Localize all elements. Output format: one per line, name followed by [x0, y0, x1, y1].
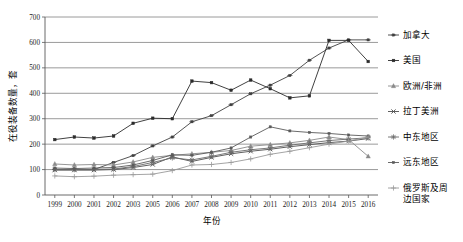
legend-item-4[interactable]: 中东地区 — [388, 131, 439, 142]
legend-item-2[interactable]: 欧洲/非洲 — [388, 80, 442, 91]
y-tick-label: 600 — [29, 39, 40, 47]
data-point — [151, 117, 154, 120]
data-point — [132, 164, 134, 166]
x-tick-label: 2006 — [165, 201, 180, 209]
y-tick-label: 300 — [29, 115, 40, 123]
x-tick-label: 2013 — [302, 201, 317, 209]
y-tick-label: 0 — [36, 192, 40, 200]
data-point — [230, 147, 232, 149]
data-point — [328, 132, 330, 134]
legend-label: 拉丁美洲 — [403, 105, 439, 116]
x-tick-label: 2011 — [263, 201, 278, 209]
data-point — [347, 39, 350, 42]
data-point — [367, 60, 370, 63]
data-point — [112, 135, 115, 138]
data-point — [210, 81, 213, 84]
legend-label: 俄罗斯及周 — [403, 182, 448, 193]
legend-item-5[interactable]: 远东地区 — [388, 156, 439, 167]
data-point — [171, 117, 174, 120]
x-tick-label: 2016 — [361, 201, 376, 209]
x-tick-label: 2014 — [322, 201, 337, 209]
x-tick-label: 2005 — [146, 201, 161, 209]
y-tick-label: 700 — [29, 14, 40, 22]
x-tick-label: 2012 — [283, 201, 298, 209]
data-point — [328, 39, 331, 42]
x-tick-label: 1999 — [48, 201, 63, 209]
data-point — [392, 59, 395, 62]
data-point — [53, 138, 56, 141]
y-tick-label: 200 — [29, 141, 40, 149]
data-point — [93, 167, 95, 169]
data-point — [73, 167, 75, 169]
legend-label: 欧洲/非洲 — [403, 80, 442, 91]
legend-item-0[interactable]: 加拿大 — [388, 29, 430, 40]
data-point — [132, 122, 135, 125]
x-tick-label: 2008 — [204, 201, 219, 209]
x-tick-label: 2015 — [341, 201, 356, 209]
y-tick-label: 100 — [29, 166, 40, 174]
legend-label: 中东地区 — [403, 131, 439, 142]
series-2 — [53, 135, 371, 167]
data-point — [112, 166, 114, 168]
chart-container: 0100200300400500600700199920002001200220… — [0, 0, 463, 242]
y-axis-title: 在役装备数量，套 — [7, 70, 18, 142]
legend-label: 远东地区 — [403, 156, 439, 167]
x-axis-title: 年份 — [203, 215, 221, 226]
legend-label: 美国 — [403, 54, 421, 65]
data-point — [249, 79, 252, 82]
data-point — [210, 151, 212, 153]
legend-item-6[interactable]: 俄罗斯及周边国家 — [388, 182, 448, 204]
data-point — [73, 136, 76, 139]
x-tick-label: 2003 — [126, 201, 141, 209]
data-point — [191, 154, 193, 156]
y-tick-label: 400 — [29, 90, 40, 98]
data-point — [269, 126, 271, 128]
y-tick-label: 500 — [29, 64, 40, 72]
legend-item-3[interactable]: 拉丁美洲 — [388, 105, 439, 116]
series-line — [55, 40, 368, 139]
x-tick-label: 2002 — [106, 201, 121, 209]
legend-label-line2: 边国家 — [403, 193, 430, 204]
x-tick-label: 2010 — [243, 201, 258, 209]
data-point — [171, 154, 173, 156]
data-point — [230, 89, 233, 92]
x-tick-label: 2007 — [185, 201, 200, 209]
data-point — [308, 131, 310, 133]
x-tick-label: 2000 — [67, 201, 82, 209]
data-point — [250, 136, 252, 138]
x-tick-label: 2001 — [87, 201, 102, 209]
data-point — [54, 167, 56, 169]
data-point — [392, 161, 394, 163]
data-point — [93, 137, 96, 140]
line-chart: 0100200300400500600700199920002001200220… — [0, 0, 463, 242]
data-point — [289, 130, 291, 132]
x-tick-label: 2009 — [224, 201, 239, 209]
legend-label: 加拿大 — [403, 29, 430, 40]
series-1 — [53, 39, 369, 141]
data-point — [308, 95, 311, 98]
data-point — [289, 97, 292, 100]
data-point — [348, 134, 350, 136]
data-point — [191, 80, 194, 83]
data-point — [152, 159, 154, 161]
legend-item-1[interactable]: 美国 — [388, 54, 421, 65]
data-point — [269, 87, 272, 90]
